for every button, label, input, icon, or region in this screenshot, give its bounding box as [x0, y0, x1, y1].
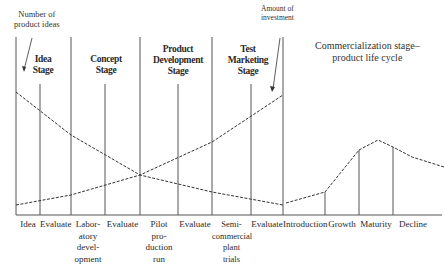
stage-concept-line2: Stage	[88, 65, 124, 76]
investment-curve	[16, 95, 283, 205]
x-label-line: Decline	[393, 219, 433, 231]
ideas-annotation: Number of product ideas	[14, 9, 60, 29]
ideas-curve	[16, 92, 283, 205]
x-label-semi-commercial-plant-trials: Semi- commercial plant trials	[212, 219, 251, 265]
investment-arrow	[273, 38, 280, 89]
x-label-line: Evaluate	[178, 219, 212, 231]
commercialization-line2: product life cycle	[315, 52, 420, 64]
commercialization-line1: Commercialization stage–	[315, 40, 420, 52]
ideas-arrowhead-icon	[22, 66, 26, 72]
investment-annotation-line1: Amount of	[261, 4, 294, 13]
stage-idea-line1: Idea	[28, 54, 58, 65]
x-label-line: pro-	[140, 231, 178, 243]
x-label-line: Pilot	[140, 219, 178, 231]
x-label-line: trials	[212, 254, 251, 266]
stage-test-marketing: Test Marketing Stage	[222, 44, 274, 77]
x-label-idea: Idea	[16, 219, 40, 231]
lifecycle-curve	[286, 140, 444, 203]
investment-arrowhead-icon	[270, 86, 275, 92]
x-label-evaluate-3: Evaluate	[178, 219, 212, 231]
x-label-laboratory-development: Labor- atory devel- opment	[71, 219, 105, 265]
stage-concept-line1: Concept	[88, 54, 124, 65]
x-label-decline: Decline	[393, 219, 433, 231]
x-label-line: plant	[212, 242, 251, 254]
stage-idea-line2: Stage	[28, 65, 58, 76]
stage-pd-line2: Development	[148, 55, 208, 66]
x-label-line: Idea	[16, 219, 40, 231]
x-label-line: duction	[140, 242, 178, 254]
ideas-annotation-line2: product ideas	[14, 19, 60, 29]
x-label-line: opment	[71, 254, 105, 266]
lifecycle-separators	[325, 147, 393, 215]
x-label-line: Growth	[325, 219, 359, 231]
x-label-line: Evaluate	[105, 219, 140, 231]
x-label-evaluate-4: Evaluate	[251, 219, 283, 231]
x-label-line: Evaluate	[40, 219, 71, 231]
evaluate-separators	[40, 84, 251, 215]
stage-tm-line2: Marketing	[222, 55, 274, 66]
ideas-annotation-line1: Number of	[14, 9, 60, 19]
x-label-pilot-production-run: Pilot pro- duction run	[140, 219, 178, 265]
stage-tm-line3: Stage	[222, 66, 274, 77]
stage-pd-line1: Product	[148, 44, 208, 55]
stage-idea: Idea Stage	[28, 54, 58, 76]
stage-product-development: Product Development Stage	[148, 44, 208, 77]
x-label-evaluate-2: Evaluate	[105, 219, 140, 231]
stage-tm-line1: Test	[222, 44, 274, 55]
x-label-line: commercial	[212, 231, 251, 243]
x-label-line: Semi-	[212, 219, 251, 231]
x-label-line: devel-	[71, 242, 105, 254]
x-label-line: Labor-	[71, 219, 105, 231]
x-label-line: Evaluate	[251, 219, 283, 231]
x-label-growth: Growth	[325, 219, 359, 231]
commercialization-annotation: Commercialization stage– product life cy…	[315, 40, 420, 64]
investment-annotation: Amount of investment	[261, 4, 294, 22]
x-label-evaluate-1: Evaluate	[40, 219, 71, 231]
stage-pd-line3: Stage	[148, 66, 208, 77]
stage-concept: Concept Stage	[88, 54, 124, 76]
x-label-line: atory	[71, 231, 105, 243]
x-label-introduction: Introduction	[283, 219, 325, 231]
x-label-line: run	[140, 254, 178, 266]
x-label-line: Maturity	[359, 219, 393, 231]
x-label-maturity: Maturity	[359, 219, 393, 231]
investment-annotation-line2: investment	[261, 13, 294, 22]
x-label-line: Introduction	[283, 219, 325, 231]
